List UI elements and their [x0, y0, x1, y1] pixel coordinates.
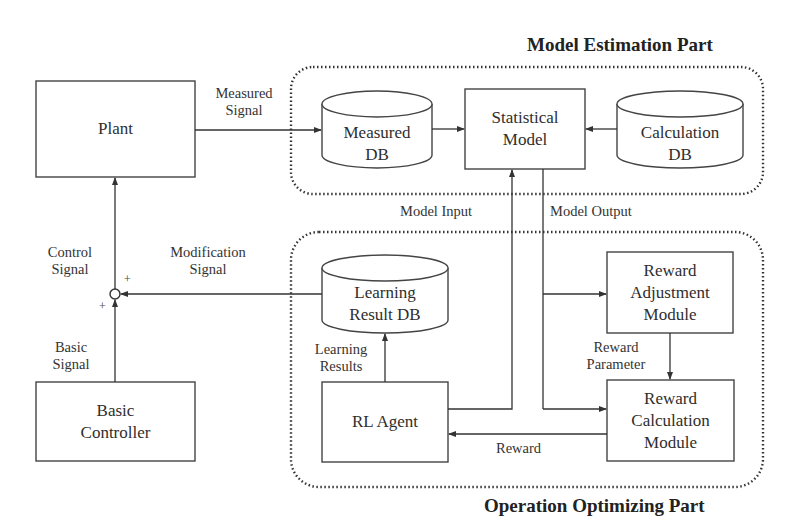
control-signal-label: Control Signal: [30, 244, 110, 278]
operation-optimizing-title: Operation Optimizing Part: [484, 495, 705, 517]
modification-signal-label: Modification Signal: [148, 244, 268, 278]
summing-junction: [110, 289, 120, 299]
basic-signal-label: Basic Signal: [33, 339, 109, 373]
reward-parameter-label: Reward Parameter: [568, 339, 664, 373]
learning-results-label: Learning Results: [300, 341, 382, 375]
plus-sign-modification: +: [124, 272, 131, 287]
plus-sign-basic: +: [99, 299, 106, 314]
plant-label: Plant: [36, 81, 195, 177]
statistical-model-label: Statistical Model: [465, 89, 585, 169]
measured-signal-label: Measured Signal: [199, 85, 289, 119]
reward-label: Reward: [496, 440, 541, 457]
rl-agent-label: RL Agent: [322, 382, 448, 462]
measured-db-label: Measured DB: [322, 116, 432, 172]
model-estimation-title: Model Estimation Part: [527, 34, 713, 56]
model-output-label: Model Output: [550, 203, 632, 220]
model-input-label: Model Input: [400, 203, 472, 220]
reward-calculation-label: Reward Calculation Module: [607, 380, 734, 461]
calculation-db-label: Calculation DB: [617, 116, 743, 172]
reward-adjustment-label: Reward Adjustment Module: [607, 252, 733, 333]
learning-result-db-label: Learning Result DB: [322, 279, 448, 329]
basic-controller-label: Basic Controller: [36, 382, 195, 461]
